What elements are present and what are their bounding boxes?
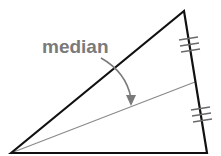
median-label: median bbox=[42, 36, 109, 57]
arrow-icon bbox=[101, 58, 131, 98]
triangle-median-diagram: median bbox=[0, 0, 221, 156]
triangle bbox=[11, 11, 207, 153]
median-line bbox=[11, 82, 195, 153]
arrowhead-icon bbox=[126, 95, 136, 106]
